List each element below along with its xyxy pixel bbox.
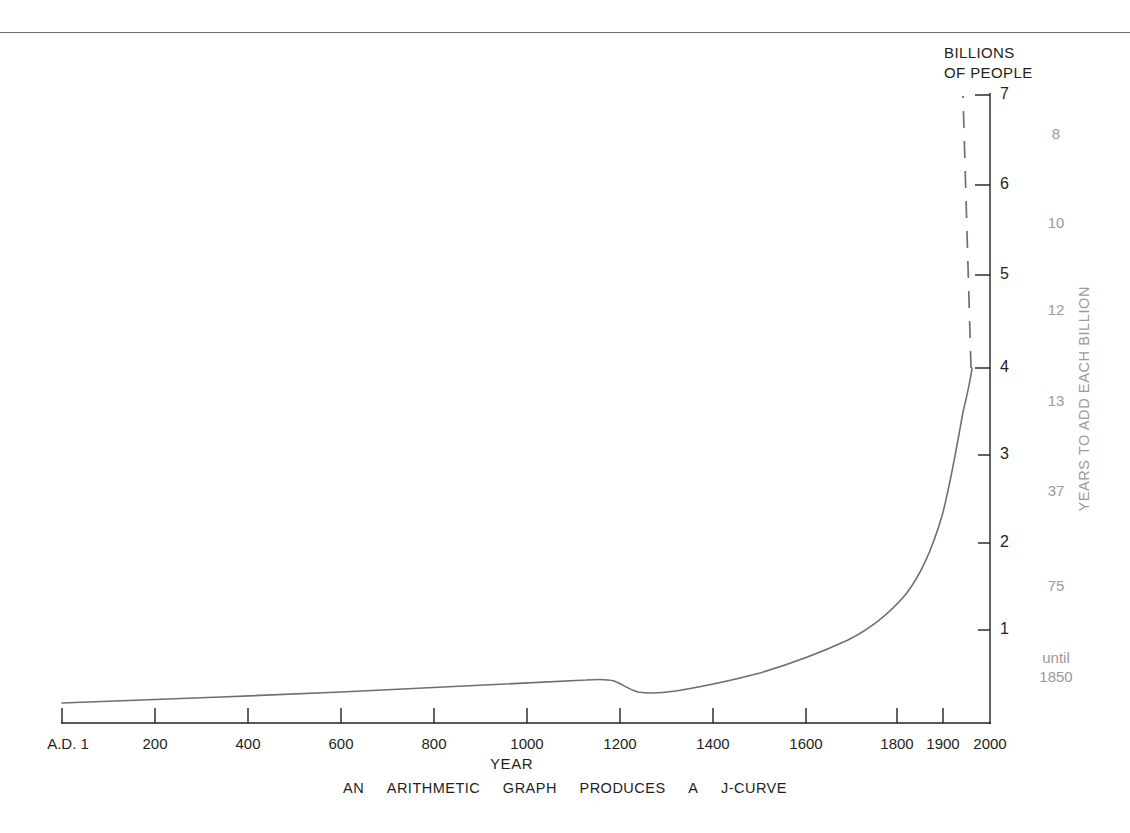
population-curve-observed	[62, 368, 972, 703]
y-tick-label-4: 4	[1000, 358, 1030, 376]
caption-word-3: GRAPH	[503, 780, 557, 796]
caption-word-4: PRODUCES	[579, 780, 665, 796]
x-tick-label-200: 200	[142, 735, 167, 752]
years-to-add-value-37: 37	[1048, 481, 1065, 500]
chart-plot-area	[0, 0, 1130, 833]
x-tick-label-ad1: A.D. 1	[47, 735, 89, 752]
x-tick-label-1000: 1000	[510, 735, 543, 752]
years-to-add-value-75: 75	[1048, 576, 1065, 595]
x-tick-label-1400: 1400	[696, 735, 729, 752]
y-tick-label-7: 7	[1000, 85, 1030, 103]
y-axis-ticks	[975, 95, 990, 630]
x-tick-label-1800: 1800	[880, 735, 913, 752]
x-tick-label-1200: 1200	[603, 735, 636, 752]
years-to-add-value-8: 8	[1052, 124, 1060, 143]
y-tick-label-1: 1	[1000, 620, 1030, 638]
years-to-add-value-10: 10	[1048, 213, 1065, 232]
caption-word-2: ARITHMETIC	[387, 780, 481, 796]
figure-page: BILLIONS OF PEOPLE	[0, 0, 1130, 833]
years-to-add-until-word: until	[1042, 648, 1070, 667]
caption-word-5: A	[688, 780, 698, 796]
figure-caption: AN ARITHMETIC GRAPH PRODUCES A J-CURVE A…	[0, 780, 1130, 796]
caption-word-1: AN	[343, 780, 364, 796]
caption-word-6: J-CURVE	[721, 780, 787, 796]
y-tick-label-6: 6	[1000, 175, 1030, 193]
years-to-add-until-year: 1850	[1039, 667, 1072, 686]
y-tick-label-5: 5	[1000, 265, 1030, 283]
x-tick-label-1600: 1600	[789, 735, 822, 752]
years-to-add-value-12: 12	[1048, 300, 1065, 319]
x-tick-label-800: 800	[421, 735, 446, 752]
y-tick-label-3: 3	[1000, 445, 1030, 463]
x-axis-title: YEAR	[490, 755, 533, 772]
right-axis-title: YEARS TO ADD EACH BILLION	[1076, 286, 1092, 512]
x-tick-label-600: 600	[328, 735, 353, 752]
y-tick-label-2: 2	[1000, 533, 1030, 551]
x-tick-label-2000: 2000	[973, 735, 1006, 752]
x-tick-label-1900: 1900	[926, 735, 959, 752]
years-to-add-value-13: 13	[1048, 391, 1065, 410]
x-tick-label-400: 400	[235, 735, 260, 752]
population-curve-projection	[963, 96, 971, 368]
x-axis-ticks	[62, 708, 943, 723]
